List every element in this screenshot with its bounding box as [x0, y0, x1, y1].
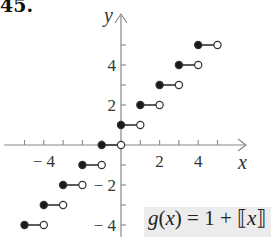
closed-endpoint — [60, 181, 67, 188]
open-endpoint — [175, 81, 182, 88]
step-function-graph: − 42442− 2− 4xy — [0, 0, 271, 239]
y-axis-label: y — [102, 4, 113, 27]
open-endpoint — [60, 201, 67, 208]
closed-endpoint — [156, 81, 163, 88]
greatest-integer-close-bracket: ⟧ — [256, 206, 266, 230]
y-tick-label: 2 — [108, 96, 117, 115]
y-tick-label: − 2 — [94, 176, 116, 195]
closed-endpoint — [21, 221, 28, 228]
closed-endpoint — [175, 61, 182, 68]
x-axis-label: x — [237, 151, 247, 173]
open-endpoint — [156, 101, 163, 108]
formula-function-name: g — [148, 206, 159, 230]
y-tick-label: 4 — [108, 56, 117, 75]
closed-endpoint — [79, 161, 86, 168]
open-endpoint — [79, 181, 86, 188]
closed-endpoint — [195, 41, 202, 48]
closed-endpoint — [98, 141, 105, 148]
greatest-integer-open-bracket: ⟦ — [237, 206, 247, 230]
formula-bracket-variable: x — [247, 206, 256, 230]
closed-endpoint — [117, 121, 124, 128]
x-tick-label: − 4 — [33, 152, 56, 171]
closed-endpoint — [40, 201, 47, 208]
closed-endpoint — [137, 101, 144, 108]
open-endpoint — [40, 221, 47, 228]
open-endpoint — [195, 61, 202, 68]
open-endpoint — [117, 141, 124, 148]
y-tick-label: − 4 — [94, 216, 117, 235]
formula-variable: x — [166, 206, 175, 230]
open-endpoint — [214, 41, 221, 48]
x-tick-label: 4 — [194, 152, 203, 171]
function-formula: g(x) = 1 + ⟦x⟧ — [148, 206, 266, 231]
formula-rhs: = 1 + — [187, 206, 237, 230]
open-endpoint — [137, 121, 144, 128]
x-tick-label: 2 — [155, 152, 164, 171]
open-endpoint — [98, 161, 105, 168]
